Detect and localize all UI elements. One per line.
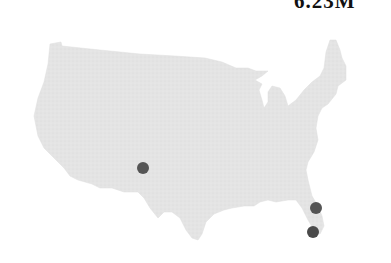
south-florida-marker[interactable]	[307, 226, 319, 238]
west-texas-marker[interactable]	[137, 162, 149, 174]
us-outline	[34, 40, 346, 240]
us-map	[0, 0, 391, 263]
north-florida-marker[interactable]	[310, 202, 322, 214]
